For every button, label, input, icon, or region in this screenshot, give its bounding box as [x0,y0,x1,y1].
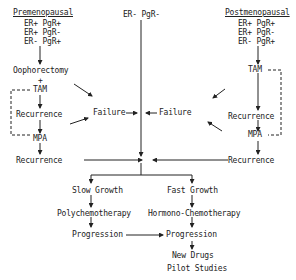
treatment-flowchart: Premenopausal ER+ PgR+ ER+ PgR- ER- PgR+… [0,0,296,280]
slow-growth-label: Slow Growth [72,186,123,196]
left-mpa-label: MPA [33,134,47,144]
progression-left-label: Progression [72,230,123,240]
failure-right-label: Failure [159,108,191,118]
left-receptor-3: ER- PgR+ [24,37,61,47]
left-recurrence-1: Recurrence [16,110,62,120]
oophorectomy-label: Oophorectomy [13,66,68,76]
right-recurrence-2: Recurrence [228,156,274,166]
new-drugs-label: New Drugs [172,251,214,261]
pilot-studies-label: Pilot Studies [167,264,227,274]
postmenopausal-heading: Postmenopausal [225,8,290,18]
failure-left-label: Failure [93,108,125,118]
right-tam-label: TAM [248,65,262,75]
er-pgr-negative-label: ER- PgR- [123,10,160,20]
polychemotherapy-label: Polychemotherapy [57,209,131,219]
progression-right-label: Progression [166,230,217,240]
fast-growth-label: Fast Growth [167,186,218,196]
right-recurrence-1: Recurrence [228,112,274,122]
right-receptor-3: ER- PgR+ [238,37,275,47]
left-tam-label: TAM [33,85,47,95]
hormono-chemotherapy-label: Hormono-Chemotherapy [148,209,240,219]
left-recurrence-2: Recurrence [16,156,62,166]
right-mpa-label: MPA [248,130,262,140]
premenopausal-heading: Premenopausal [13,8,73,18]
